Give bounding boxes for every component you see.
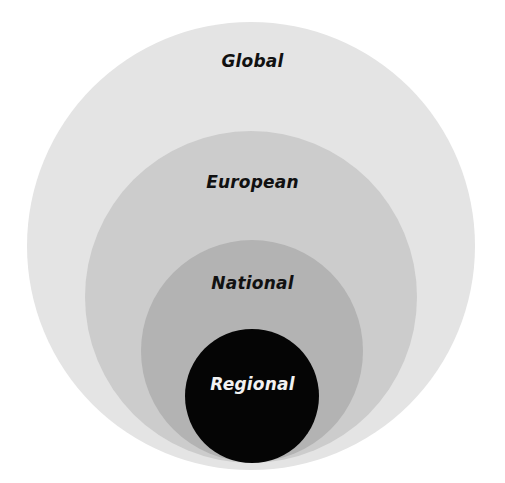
label-national: National: [0, 273, 505, 293]
label-european: European: [0, 172, 505, 192]
label-regional: Regional: [0, 374, 505, 394]
circle-regional: [185, 329, 319, 463]
label-global: Global: [0, 51, 505, 71]
nested-scope-diagram: Global European National Regional: [0, 0, 505, 483]
